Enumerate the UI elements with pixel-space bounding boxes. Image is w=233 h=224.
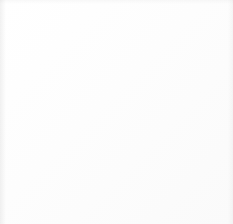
tessellation-drawing: [0, 0, 233, 224]
graph-paper-sheet: [0, 0, 233, 224]
